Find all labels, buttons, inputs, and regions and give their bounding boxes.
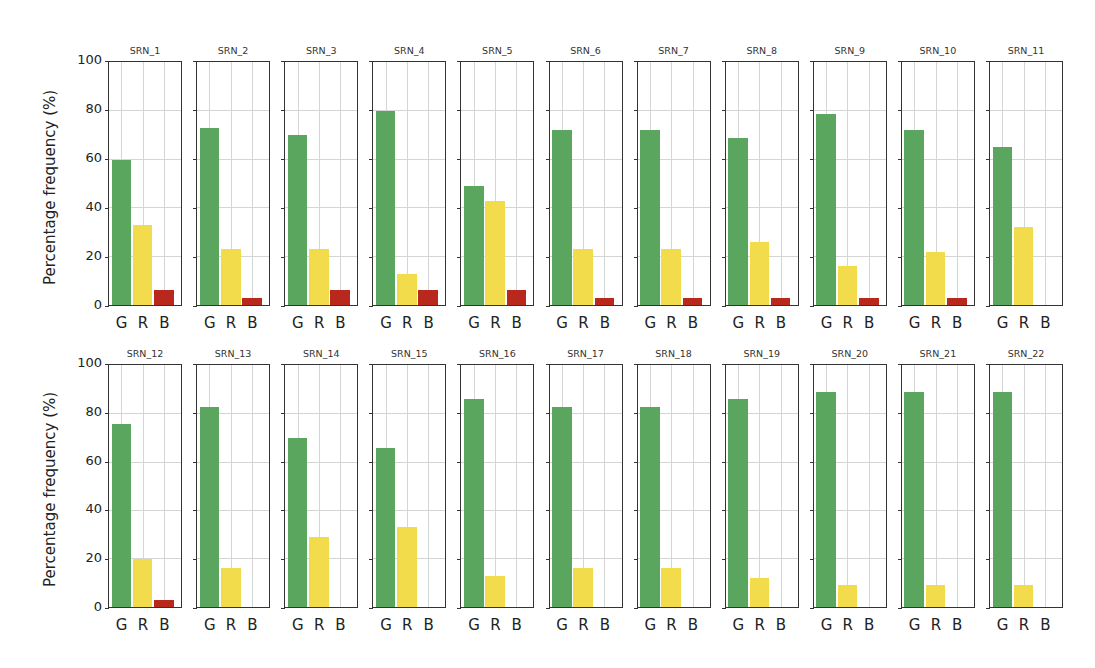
x-tick-label: R [135, 314, 151, 332]
x-tick-label: R [399, 314, 415, 332]
bar-g [200, 128, 220, 305]
y-tick-mark [986, 608, 990, 609]
y-tick-mark [810, 208, 814, 209]
bar-g [112, 160, 132, 305]
x-tick-label: R [575, 314, 591, 332]
x-tick-label: R [399, 616, 415, 634]
panel-srn-16 [460, 364, 534, 608]
x-tick-label: G [730, 314, 746, 332]
bar-r [397, 527, 417, 607]
y-tick-mark [281, 208, 285, 209]
x-tick-label: G [642, 616, 658, 634]
panel-srn-17 [549, 364, 623, 608]
y-tick-mark [369, 608, 373, 609]
x-tick-label: R [487, 616, 503, 634]
y-tick-mark [546, 110, 550, 111]
panel-title: SRN_20 [813, 348, 887, 359]
bar-g [904, 392, 924, 607]
y-tick-mark [369, 462, 373, 463]
x-tick-label: G [730, 616, 746, 634]
bar-b [859, 298, 879, 305]
y-tick-mark [369, 559, 373, 560]
y-tick-mark [105, 510, 109, 511]
x-tick-label: G [554, 616, 570, 634]
bar-b [154, 600, 174, 607]
gridline [461, 159, 533, 160]
y-tick-mark [546, 61, 550, 62]
y-tick-mark [281, 159, 285, 160]
x-tick-label: B [332, 616, 348, 634]
y-tick-mark [281, 306, 285, 307]
y-tick-mark [546, 159, 550, 160]
bar-g [464, 399, 484, 607]
bar-g [816, 114, 836, 305]
y-tick-mark [369, 257, 373, 258]
y-tick-mark [281, 559, 285, 560]
y-tick-label: 80 [66, 404, 102, 419]
gridline [604, 62, 605, 305]
x-tick-label: R [311, 314, 327, 332]
x-tick-label: B [244, 314, 260, 332]
x-tick-label: G [202, 314, 218, 332]
panel-title: SRN_1 [108, 45, 182, 56]
y-tick-mark [810, 306, 814, 307]
panel-title: SRN_14 [284, 348, 358, 359]
figure: Percentage frequency (%) Percentage freq… [0, 0, 1095, 668]
y-tick-mark [369, 413, 373, 414]
y-tick-mark [634, 413, 638, 414]
gridline [638, 110, 710, 111]
x-tick-label: B [949, 616, 965, 634]
y-tick-mark [546, 510, 550, 511]
x-tick-label: B [509, 616, 525, 634]
y-tick-mark [369, 364, 373, 365]
panel-srn-6 [549, 61, 623, 306]
x-tick-label: B [597, 616, 613, 634]
y-tick-mark [810, 364, 814, 365]
panel-srn-9 [813, 61, 887, 306]
bar-r [573, 568, 593, 607]
x-tick-label: B [1037, 616, 1053, 634]
y-tick-mark [722, 364, 726, 365]
gridline [407, 62, 408, 305]
y-tick-label: 20 [66, 550, 102, 565]
gridline [726, 110, 798, 111]
bar-g [464, 186, 484, 305]
x-tick-label: R [1016, 314, 1032, 332]
panel-srn-15 [372, 364, 446, 608]
gridline [550, 110, 622, 111]
bar-g [993, 147, 1013, 305]
y-tick-mark [457, 462, 461, 463]
x-tick-label: R [311, 616, 327, 634]
y-tick-mark [898, 510, 902, 511]
y-tick-mark [722, 110, 726, 111]
panel-title: SRN_12 [108, 348, 182, 359]
y-tick-mark [898, 61, 902, 62]
y-tick-mark [546, 462, 550, 463]
y-tick-mark [722, 306, 726, 307]
y-tick-mark [898, 110, 902, 111]
x-tick-label: B [332, 314, 348, 332]
bar-r [221, 568, 241, 607]
y-tick-mark [546, 257, 550, 258]
panel-title: SRN_11 [989, 45, 1063, 56]
gridline [373, 413, 445, 414]
bar-r [838, 585, 858, 607]
panel-title: SRN_17 [549, 348, 623, 359]
y-tick-mark [457, 257, 461, 258]
x-tick-label: G [378, 314, 394, 332]
bar-g [376, 111, 396, 305]
x-tick-label: B [861, 314, 877, 332]
bar-r [309, 537, 329, 607]
x-tick-label: B [1037, 314, 1053, 332]
y-tick-mark [810, 257, 814, 258]
panel-srn-3 [284, 61, 358, 306]
panel-title: SRN_22 [989, 348, 1063, 359]
gridline [340, 62, 341, 305]
y-tick-mark [634, 559, 638, 560]
gridline [516, 62, 517, 305]
y-tick-mark [193, 462, 197, 463]
gridline [847, 365, 848, 607]
bar-r [485, 201, 505, 305]
bar-r [221, 249, 241, 305]
x-tick-label: B [685, 314, 701, 332]
